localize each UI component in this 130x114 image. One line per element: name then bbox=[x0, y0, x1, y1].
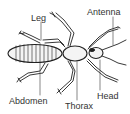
label-abdomen: Abdomen bbox=[9, 96, 48, 106]
leg-front-upper-right bbox=[88, 27, 120, 49]
thorax-shape bbox=[63, 46, 87, 61]
antenna bbox=[102, 40, 126, 65]
insect-diagram: Leg Antenna Abdomen Thorax Head bbox=[0, 0, 130, 114]
head-shape bbox=[89, 48, 103, 59]
abdomen-shape bbox=[8, 45, 62, 63]
leg-mid-lower bbox=[57, 61, 75, 94]
leg-lower-left bbox=[17, 63, 48, 82]
label-antenna: Antenna bbox=[87, 7, 121, 17]
leg-mid-upper bbox=[50, 12, 74, 46]
label-head: Head bbox=[97, 91, 119, 101]
leg-lower-right bbox=[87, 59, 118, 82]
label-leg: Leg bbox=[31, 13, 46, 23]
label-thorax: Thorax bbox=[65, 101, 93, 111]
